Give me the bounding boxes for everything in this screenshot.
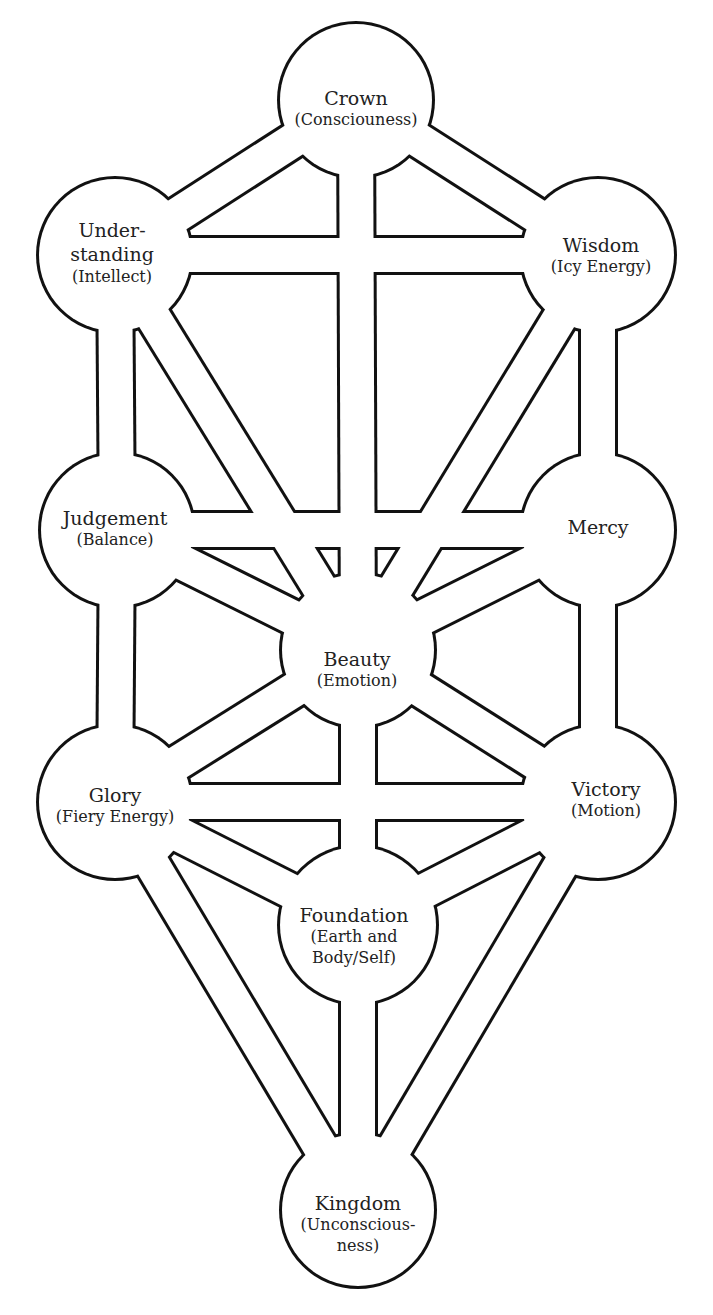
label-mercy: Mercy — [567, 515, 628, 539]
understanding-name-line2: standing — [70, 243, 154, 267]
crown-sub: (Consciouness) — [294, 110, 417, 130]
label-beauty: Beauty (Emotion) — [317, 647, 397, 692]
understanding-sub: (Intellect) — [70, 267, 154, 287]
glory-name: Glory — [56, 783, 174, 807]
label-victory: Victory (Motion) — [571, 777, 641, 822]
foundation-sub-line1: (Earth and — [300, 928, 409, 948]
beauty-sub: (Emotion) — [317, 671, 397, 691]
label-foundation: Foundation (Earth and Body/Self) — [300, 903, 409, 968]
label-wisdom: Wisdom (Icy Energy) — [551, 233, 651, 278]
understanding-name-line1: Under- — [70, 218, 154, 242]
label-crown: Crown (Consciouness) — [294, 86, 417, 131]
kingdom-sub-line2: ness) — [301, 1236, 416, 1256]
label-kingdom: Kingdom (Unconscious- ness) — [301, 1191, 416, 1256]
foundation-name: Foundation — [300, 903, 409, 927]
label-glory: Glory (Fiery Energy) — [56, 783, 174, 828]
foundation-sub-line2: Body/Self) — [300, 948, 409, 968]
beauty-name: Beauty — [317, 647, 397, 671]
kingdom-sub-line1: (Unconscious- — [301, 1216, 416, 1236]
judgement-sub: (Balance) — [63, 530, 168, 550]
wisdom-sub: (Icy Energy) — [551, 257, 651, 277]
judgement-name: Judgement — [63, 506, 168, 530]
label-judgement: Judgement (Balance) — [63, 506, 168, 551]
kingdom-name: Kingdom — [301, 1191, 416, 1215]
glory-sub: (Fiery Energy) — [56, 807, 174, 827]
wisdom-name: Wisdom — [551, 233, 651, 257]
label-understanding: Under- standing (Intellect) — [70, 218, 154, 287]
victory-sub: (Motion) — [571, 801, 641, 821]
mercy-name: Mercy — [567, 515, 628, 539]
crown-name: Crown — [294, 86, 417, 110]
victory-name: Victory — [571, 777, 641, 801]
